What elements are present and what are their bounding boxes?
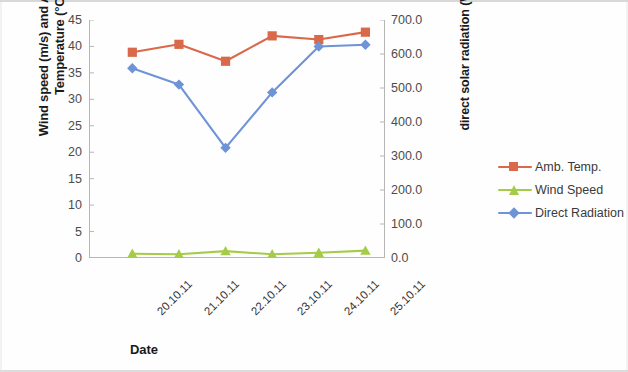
left-tick-label: 35 <box>54 66 82 80</box>
right-tick-label: 300.0 <box>391 149 437 163</box>
legend-label: Amb. Temp. <box>532 160 601 174</box>
x-axis-title-text: Date <box>130 342 158 357</box>
data-point-diamond <box>360 40 370 50</box>
legend-item-diamond[interactable]: Direct Radiation <box>498 201 624 224</box>
right-tick-label: 200.0 <box>391 183 437 197</box>
right-tick-label: 0.0 <box>391 251 437 265</box>
left-tick-label: 45 <box>54 13 82 27</box>
x-tick-label: 24.10.11 <box>341 278 381 318</box>
x-axis-title: Date <box>0 342 628 357</box>
x-tick-label: 21.10.11 <box>202 278 242 318</box>
data-point-square <box>128 48 137 57</box>
right-tick-label: 700.0 <box>391 13 437 27</box>
x-tick-label: 20.10.11 <box>155 278 195 318</box>
figure-left-edge <box>0 2 2 370</box>
left-tick-label: 10 <box>54 198 82 212</box>
left-tick-label: 40 <box>54 39 82 53</box>
legend-marker-triangle-icon <box>498 183 532 197</box>
left-tick-label: 5 <box>54 225 82 239</box>
data-point-square <box>268 31 277 40</box>
plot-area <box>89 20 385 258</box>
x-tick-label: 22.10.11 <box>248 278 288 318</box>
right-tick-label: 400.0 <box>391 115 437 129</box>
legend-marker-diamond-icon <box>498 206 532 220</box>
left-tick-label: 20 <box>54 145 82 159</box>
left-tick-label: 25 <box>54 119 82 133</box>
legend-marker-square-icon <box>498 160 532 174</box>
legend-item-triangle[interactable]: Wind Speed <box>498 178 624 201</box>
legend-item-square[interactable]: Amb. Temp. <box>498 155 624 178</box>
plot-svg <box>89 20 385 258</box>
data-point-square <box>174 40 183 49</box>
left-tick-label: 30 <box>54 92 82 106</box>
legend-label: Wind Speed <box>532 183 603 197</box>
x-tick-label: 25.10.11 <box>388 278 428 318</box>
legend-label: Direct Radiation <box>532 206 624 220</box>
left-tick-label: 15 <box>54 172 82 186</box>
right-tick-label: 600.0 <box>391 47 437 61</box>
right-axis-title: direct solar radiation (W/m²) <box>458 0 472 162</box>
data-point-square <box>361 28 370 37</box>
right-tick-label: 100.0 <box>391 217 437 231</box>
data-point-diamond <box>127 63 137 73</box>
right-tick-label: 500.0 <box>391 81 437 95</box>
x-tick-label: 23.10.11 <box>295 278 335 318</box>
left-tick-label: 0 <box>54 251 82 265</box>
chart-legend: Amb. Temp.Wind SpeedDirect Radiation <box>498 155 624 224</box>
chart-figure: Wind speed (m/s) and Ambient Temperature… <box>0 0 628 372</box>
data-point-square <box>221 57 230 66</box>
